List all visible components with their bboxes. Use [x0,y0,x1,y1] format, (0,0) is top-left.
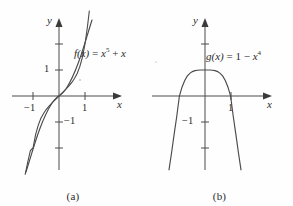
y-tick-label-a-neg1: −1 [64,116,75,127]
panel-a-caption: (a) [0,190,146,202]
plot-a-svg [0,0,146,206]
function-label-b-equals: = [226,50,232,62]
function-label-b-base: 1 [235,50,241,62]
function-label-a-plus: + [112,47,118,59]
y-axis-arrowhead-b [202,18,209,27]
y-tick-label-a-pos1: 1 [44,64,49,75]
y-tick-label-b-neg1: −1 [182,116,193,127]
scan-speck-b [155,61,156,62]
function-label-a-exponent: 5 [106,46,110,54]
function-label-a-tail: x [121,47,126,59]
function-label-a-equals: = [92,47,98,59]
x-axis-label-b: x [267,99,272,110]
y-axis-arrowhead-a [56,18,63,27]
function-label-b: g(x) = 1 − x4 [206,51,261,62]
y-axis-label-b: y [193,15,198,26]
function-label-b-exponent: 4 [258,49,262,57]
function-label-b-minus: − [244,50,250,62]
panel-b: y x 1 −1 g(x) = 1 − x4 (b) [146,0,293,206]
scan-speck-a [79,79,80,80]
y-axis-label-a: y [47,15,52,26]
function-label-b-arg: (x) [212,50,224,62]
x-tick-label-b-pos1: 1 [228,103,233,114]
figure-container: y x −1 1 1 −1 f(x) = x5 + x (a) [0,0,293,206]
panel-a: y x −1 1 1 −1 f(x) = x5 + x (a) [0,0,146,206]
x-tick-label-a-pos1: 1 [82,103,87,114]
function-label-a: f(x) = x5 + x [74,48,126,59]
x-axis-label-a: x [117,99,122,110]
function-label-a-arg: (x) [77,47,89,59]
x-tick-label-a-neg1: −1 [24,103,35,114]
curve-f [25,11,89,174]
panel-b-caption: (b) [146,190,293,202]
